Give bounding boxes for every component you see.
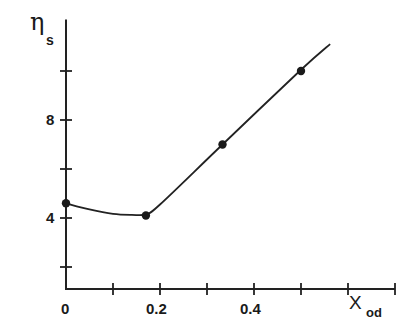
x-tick-label: 0.2 [146,300,167,317]
data-point [218,140,226,148]
y-tick-label: 4 [46,209,54,226]
x-tick-label: 0 [61,300,69,317]
data-points [62,67,305,220]
data-point [62,199,70,207]
axes [65,20,395,290]
chart-plot [0,0,414,330]
fit-curve [66,44,330,215]
data-point [297,67,305,75]
x-tick-label: 0.4 [240,300,261,317]
x-axis-label-subscript: od [366,305,382,320]
ticks [60,71,395,295]
x-axis-label: X [349,292,362,314]
y-tick-label: 8 [46,111,54,128]
y-axis-label-subscript: s [46,32,54,48]
y-axis-label: η [30,8,44,36]
data-point [142,211,150,219]
